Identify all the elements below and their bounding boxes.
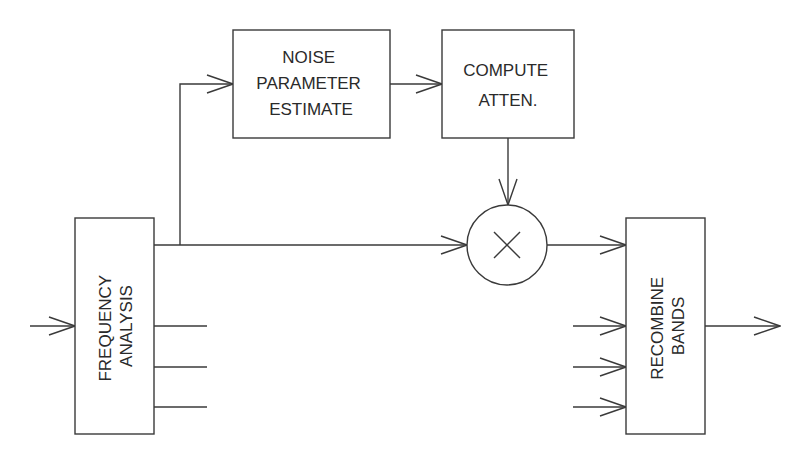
noise-line-1: NOISE — [282, 48, 335, 67]
noise-line-3: ESTIMATE — [269, 100, 353, 119]
frequency-analysis-line-1: FREQUENCY — [96, 275, 115, 381]
recombine-line-2: BANDS — [669, 297, 688, 356]
compute-atten-block: COMPUTE ATTEN. — [442, 30, 574, 138]
frequency-analysis-line-2: ANALYSIS — [117, 285, 136, 367]
frequency-analysis-block: FREQUENCY ANALYSIS — [75, 218, 154, 434]
compute-line-2: ATTEN. — [478, 91, 537, 110]
recombine-line-1: RECOMBINE — [648, 277, 667, 380]
compute-line-1: COMPUTE — [463, 61, 548, 80]
multiplier-node — [467, 205, 547, 285]
recombine-bands-block: RECOMBINE BANDS — [626, 218, 705, 434]
block-diagram: FREQUENCY ANALYSIS NOISE PARAMETER ESTIM… — [0, 0, 811, 461]
noise-line-2: PARAMETER — [256, 74, 361, 93]
compute-atten-box — [442, 30, 574, 138]
branch-to-noise-estimate-arrow — [180, 84, 233, 245]
noise-parameter-estimate-block: NOISE PARAMETER ESTIMATE — [233, 30, 390, 138]
